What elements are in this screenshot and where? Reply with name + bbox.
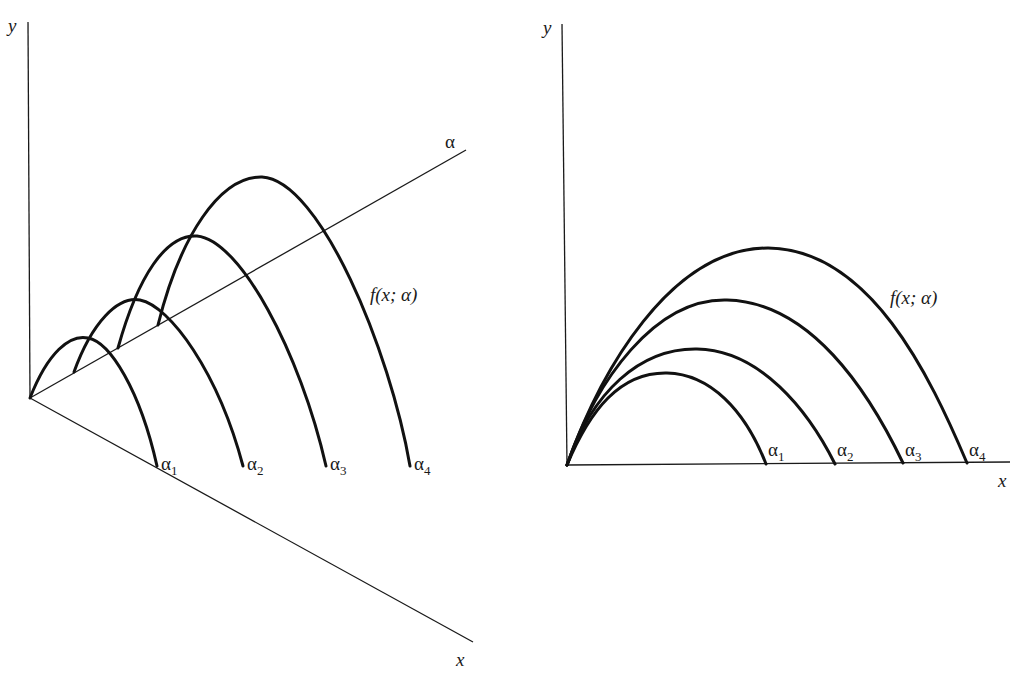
right-curve-alpha-1 [567,373,766,465]
alpha-subscript: 2 [257,463,264,478]
left-curve-alpha-1 [30,337,157,466]
left-x-axis-label: x [455,649,465,670]
left-alpha-axis-label: α [445,131,455,152]
right-curve-label-alpha-1: α1 [768,439,784,464]
alpha-symbol: α [330,453,340,474]
alpha-subscript: 4 [979,449,986,464]
right-panel: y x f(x; α) α1 α2 α3 α4 [541,17,1010,491]
right-curve-label-alpha-4: α4 [969,439,986,464]
alpha-subscript: 1 [778,449,785,464]
alpha-subscript: 3 [915,449,922,464]
right-function-label-text: f(x; α) [890,287,937,309]
alpha-symbol: α [161,453,171,474]
alpha-symbol: α [837,439,847,460]
left-function-label-text: f(x; α) [370,284,417,306]
alpha-symbol: α [969,439,979,460]
right-x-axis [567,462,1010,465]
right-y-axis [562,24,567,465]
left-curve-label-alpha-3: α3 [330,453,346,478]
alpha-symbol: α [247,453,257,474]
alpha-subscript: 2 [847,449,854,464]
right-function-label: f(x; α) [890,287,937,309]
left-curve-alpha-4 [158,177,410,466]
left-curve-label-alpha-2: α2 [247,453,263,478]
alpha-symbol: α [905,439,915,460]
left-y-axis [28,22,30,398]
left-function-label: f(x; α) [370,284,417,306]
right-curve-alpha-2 [567,349,835,465]
left-x-axis [30,398,473,642]
right-x-axis-label: x [997,470,1007,491]
right-curve-label-alpha-2: α2 [837,439,853,464]
alpha-subscript: 4 [424,463,431,478]
right-y-axis-label: y [541,17,552,38]
right-curve-label-alpha-3: α3 [905,439,921,464]
figure: y α x f(x; α) α1 α2 α3 α4 y x [0,0,1014,681]
left-y-axis-label: y [6,15,17,36]
left-alpha-axis [30,150,466,398]
alpha-symbol: α [414,453,424,474]
alpha-symbol: α [768,439,778,460]
alpha-subscript: 3 [340,463,347,478]
left-curve-label-alpha-4: α4 [414,453,431,478]
alpha-subscript: 1 [171,463,178,478]
left-panel: y α x f(x; α) α1 α2 α3 α4 [6,15,473,670]
